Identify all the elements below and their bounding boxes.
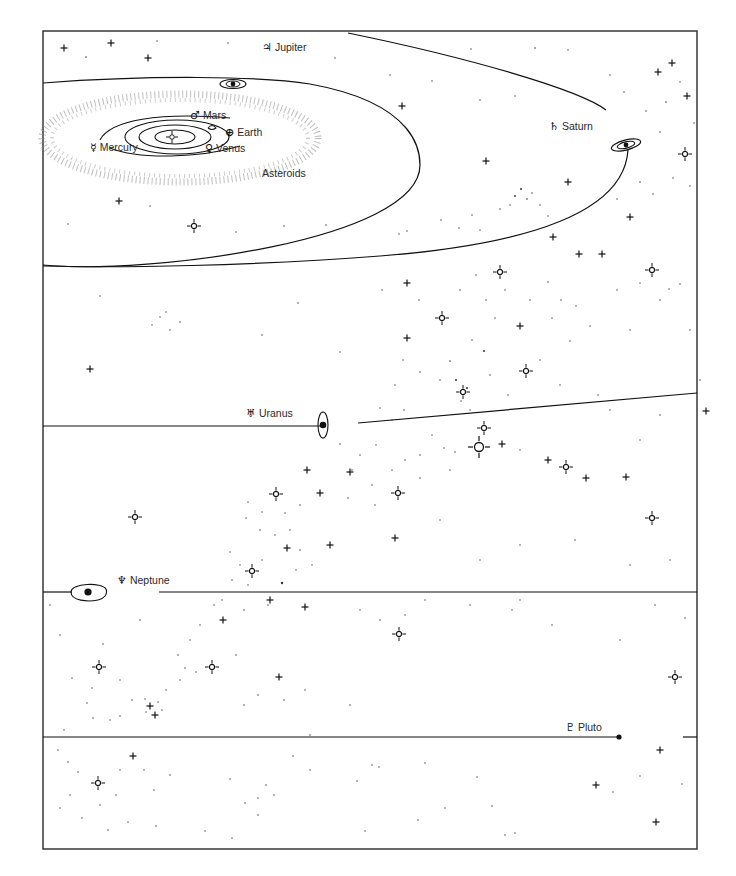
mercury-name: Mercury [100, 141, 138, 153]
earth-moon-icon [208, 126, 216, 130]
label-mars: ♂Mars [190, 110, 226, 121]
neptune-planet-icon [71, 584, 107, 600]
bright-star-ring-icons [91, 147, 692, 790]
venus-name: Venus [216, 142, 245, 154]
uranus-planet-icon [318, 412, 328, 438]
sun-icon [166, 131, 178, 143]
solar-system-diagram: ♃Jupiter ♂Mars ⊕Earth ☿Mercury ♀Venus As… [0, 0, 736, 876]
label-neptune: ♆Neptune [117, 575, 170, 586]
pluto-name: Pluto [578, 721, 602, 733]
large-ring-star-icon [468, 436, 490, 458]
label-pluto: ♇Pluto [565, 722, 602, 733]
saturn-planet-icon [610, 137, 642, 154]
saturn-name: Saturn [562, 120, 593, 132]
label-jupiter: ♃Jupiter [262, 42, 306, 53]
mars-symbol-icon: ♂ [190, 109, 200, 122]
neptune-symbol-icon: ♆ [117, 574, 127, 587]
label-venus: ♀Venus [205, 143, 245, 154]
pluto-planet-icon [616, 734, 621, 739]
saturn-orbit-lower [43, 150, 628, 267]
neptune-name: Neptune [130, 574, 170, 586]
uranus-orbit-right [358, 393, 697, 423]
label-uranus: ♅Uranus [246, 408, 293, 419]
star-cross-icons [61, 40, 710, 826]
jupiter-orbit [43, 77, 420, 266]
jupiter-planet-icon [220, 80, 246, 89]
uranus-symbol-icon: ♅ [246, 407, 256, 420]
label-asteroids: Asteroids [262, 168, 306, 179]
uranus-name: Uranus [259, 407, 293, 419]
label-saturn: ♄Saturn [549, 121, 593, 132]
background-star-dots [49, 40, 700, 838]
label-earth: ⊕Earth [225, 127, 262, 138]
label-mercury: ☿Mercury [90, 142, 138, 153]
jupiter-symbol-icon: ♃ [262, 41, 272, 54]
saturn-orbit [348, 33, 606, 110]
mercury-symbol-icon: ☿ [90, 141, 97, 154]
mars-name: Mars [203, 109, 226, 121]
diagram-canvas [0, 0, 736, 876]
earth-symbol-icon: ⊕ [225, 126, 234, 139]
pluto-symbol-icon: ♇ [565, 721, 575, 734]
saturn-symbol-icon: ♄ [549, 120, 559, 133]
venus-symbol-icon: ♀ [205, 142, 213, 155]
earth-name: Earth [237, 126, 262, 138]
asteroids-name: Asteroids [262, 167, 306, 179]
jupiter-name: Jupiter [275, 41, 307, 53]
